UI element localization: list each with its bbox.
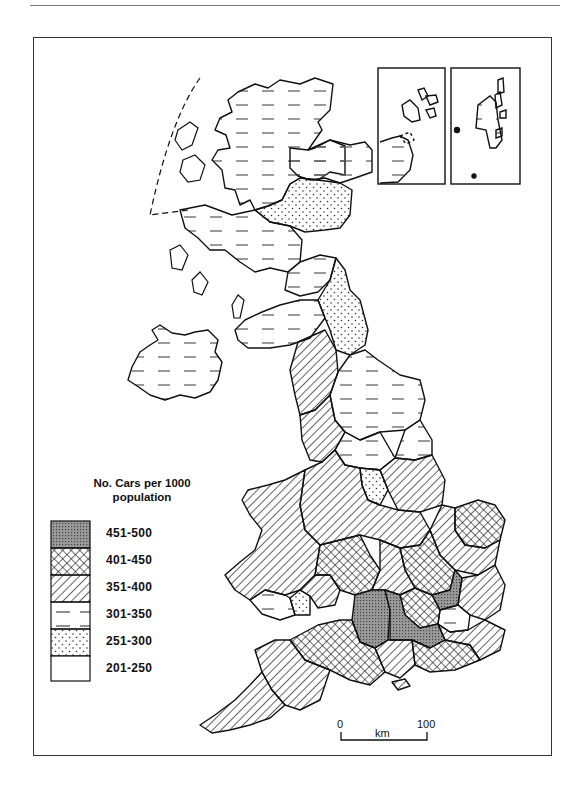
legend-item: 451-500 [50, 520, 220, 547]
legend-item: 201-250 [50, 655, 220, 682]
region-isle-of-wight [392, 679, 410, 690]
inset-orkney [378, 68, 445, 184]
sea-boundary-lines [150, 78, 200, 215]
scale-unit: km [375, 727, 390, 739]
legend-item: 251-300 [50, 628, 220, 655]
region-northern-ireland [128, 325, 222, 400]
legend-item: 301-350 [50, 601, 220, 628]
scale-bar: 0 km 100 [335, 718, 445, 748]
legend-title: No. Cars per 1000 population [62, 476, 222, 504]
scale-start: 0 [337, 718, 343, 730]
legend-item: 351-400 [50, 574, 220, 601]
inset-shetland [451, 68, 520, 184]
region-lincolnshire [380, 455, 445, 512]
legend-item: 401-450 [50, 547, 220, 574]
scale-end: 100 [417, 718, 435, 730]
